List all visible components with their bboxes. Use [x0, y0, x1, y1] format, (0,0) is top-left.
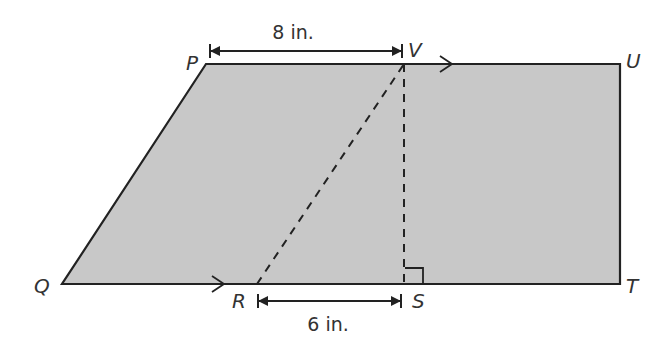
- trapezoid-diagram: 8 in. 6 in. P V U T Q R S: [0, 0, 672, 346]
- dimension-RS: 6 in.: [258, 294, 401, 335]
- dimension-label-top: 8 in.: [272, 21, 314, 43]
- vertex-label-U: U: [626, 49, 641, 73]
- vertex-label-P: P: [186, 51, 199, 75]
- vertex-label-T: T: [626, 274, 640, 298]
- vertex-label-V: V: [408, 38, 423, 62]
- diagram-stage: 8 in. 6 in. P V U T Q R S: [0, 0, 672, 346]
- vertex-label-S: S: [412, 289, 425, 313]
- dimension-PV: 8 in.: [210, 21, 402, 58]
- vertex-label-Q: Q: [34, 274, 50, 298]
- vertex-label-R: R: [232, 289, 246, 313]
- trapezoid-shape: [62, 64, 620, 284]
- dimension-label-bottom: 6 in.: [307, 313, 349, 335]
